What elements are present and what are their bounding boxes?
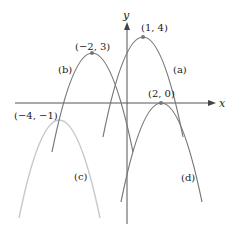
- curve-c-label: (c): [74, 171, 88, 182]
- curve-b-label: (b): [58, 64, 72, 75]
- y-axis-label: y: [122, 9, 130, 22]
- curve-a-vertex-label: (1, 4): [141, 22, 168, 33]
- curve-a-label: (a): [173, 64, 187, 75]
- curve-d-vertex-label: (2, 0): [148, 88, 175, 99]
- curve-d: (d) (2, 0): [121, 88, 202, 202]
- parabola-diagram: x y (c) (−4, −1) (b) (−2, 3) (a) (1, 4) …: [0, 0, 232, 231]
- curve-c-vertex-label: (−4, −1): [14, 110, 58, 121]
- curve-d-label: (d): [181, 172, 195, 183]
- curve-d-vertex-dot: [159, 101, 163, 105]
- y-axis-arrow-icon: [124, 22, 130, 30]
- curve-b: (b) (−2, 3): [52, 41, 133, 152]
- curve-a-vertex-dot: [141, 35, 145, 39]
- x-axis-arrow-icon: [208, 100, 216, 106]
- x-axis-label: x: [219, 97, 226, 110]
- curve-b-vertex-label: (−2, 3): [75, 41, 110, 52]
